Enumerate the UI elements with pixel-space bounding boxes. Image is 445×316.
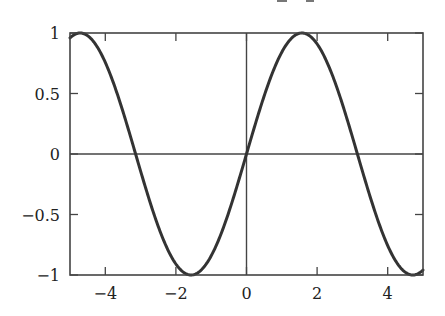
y-tick-label: 1 [50,24,60,43]
cropped-title-fragments [277,0,314,2]
y-tick-label: 0 [50,145,60,164]
sine-chart: −4−2024 10.50−0.5−1 [0,0,445,316]
y-tick-label: 0.5 [35,85,60,104]
x-tick-label: −4 [94,284,118,303]
y-axis-tick-labels: 10.50−0.5−1 [21,24,60,285]
x-tick-label: 2 [312,284,322,303]
x-tick-label: 0 [241,284,251,303]
x-axis-tick-labels: −4−2024 [94,284,393,303]
y-tick-label: −0.5 [21,206,60,225]
x-tick-label: 4 [383,284,393,303]
y-tick-label: −1 [36,266,60,285]
x-tick-label: −2 [164,284,188,303]
